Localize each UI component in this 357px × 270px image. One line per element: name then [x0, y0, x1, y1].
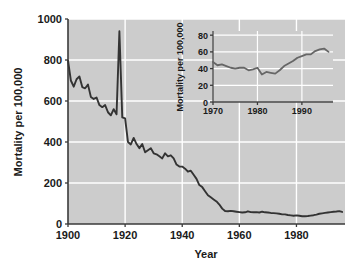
y-tick-label: 80 — [198, 31, 208, 41]
mortality-line-chart: 02004006008001000 19001920194019601980 M… — [0, 0, 357, 270]
main-y-axis-title: Mortality per 100,000 — [12, 68, 24, 177]
y-tick-label: 600 — [44, 95, 62, 107]
y-tick-label: 200 — [44, 177, 62, 189]
main-x-tick-labels: 19001920194019601980 — [56, 224, 309, 241]
x-tick-label: 1990 — [292, 106, 312, 116]
y-tick-label: 800 — [44, 54, 62, 66]
chart-figure: 02004006008001000 19001920194019601980 M… — [0, 0, 357, 270]
main-y-tick-labels: 02004006008001000 — [38, 13, 68, 230]
x-tick-label: 1900 — [56, 229, 80, 241]
y-tick-label: 20 — [198, 81, 208, 91]
inset-y-axis-title: Mortality per 100,000 — [175, 22, 185, 111]
y-tick-label: 40 — [198, 64, 208, 74]
inset-plot-background — [213, 31, 333, 102]
y-tick-label: 1000 — [38, 13, 62, 25]
x-tick-label: 1920 — [113, 229, 137, 241]
x-tick-label: 1940 — [170, 229, 194, 241]
x-tick-label: 1960 — [227, 229, 251, 241]
y-tick-label: 60 — [198, 47, 208, 57]
x-tick-label: 1980 — [284, 229, 308, 241]
main-x-axis-title: Year — [194, 248, 218, 260]
x-tick-label: 1980 — [247, 106, 267, 116]
y-tick-label: 400 — [44, 136, 62, 148]
x-tick-label: 1970 — [203, 106, 223, 116]
